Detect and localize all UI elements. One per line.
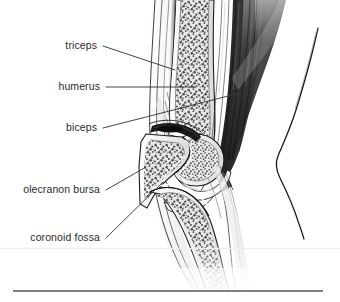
label-triceps: triceps (0, 40, 97, 51)
label-olecranon-bursa: olecranon bursa (0, 184, 100, 195)
label-biceps: biceps (0, 122, 97, 133)
label-humerus: humerus (0, 81, 100, 92)
label-coronoid-fossa: coronoid fossa (0, 232, 100, 243)
